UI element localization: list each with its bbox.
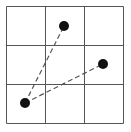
points [20,21,108,108]
dashed-segment [25,26,64,103]
point-dot [98,59,108,69]
dashed-segments [25,26,103,103]
point-dot [59,21,69,31]
dashed-segment [25,64,103,103]
grid-diagram [0,0,131,132]
point-dot [20,98,30,108]
